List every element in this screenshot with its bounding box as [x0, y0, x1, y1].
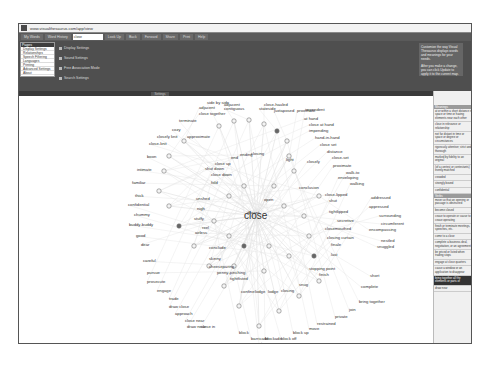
word-node[interactable]: pursue	[147, 270, 160, 275]
meaning-item[interactable]: cause a window or an application to disa…	[434, 266, 472, 276]
meaning-node[interactable]	[297, 294, 301, 298]
meaning-item[interactable]: rigorously attentive; strict and thoroug…	[434, 145, 472, 155]
word-node[interactable]: approximate	[187, 134, 211, 139]
word-node[interactable]: surrounding	[379, 213, 402, 218]
meaning-node[interactable]	[287, 254, 291, 258]
word-node[interactable]: walking	[350, 181, 365, 186]
meaning-node[interactable]	[257, 324, 261, 328]
word-node[interactable]: lodge	[255, 289, 266, 294]
word-node[interactable]: end	[231, 155, 239, 160]
word-node[interactable]: stop	[259, 341, 268, 344]
print-button[interactable]: Print	[180, 34, 193, 40]
scrollbar[interactable]	[471, 91, 472, 344]
meaning-item[interactable]: complete a business deal, negotiation, o…	[434, 240, 472, 250]
meaning-node[interactable]	[317, 194, 321, 198]
word-node[interactable]: nigh	[197, 206, 206, 211]
meaning-node[interactable]	[247, 118, 251, 122]
word-node[interactable]: addressed	[371, 195, 391, 200]
section-display-settings[interactable]: Display Settings	[59, 46, 89, 50]
meaning-node[interactable]	[285, 139, 289, 143]
word-node[interactable]: buddy-buddy	[129, 222, 154, 227]
word-node[interactable]: intimate	[137, 167, 152, 172]
word-node[interactable]: blockade	[265, 336, 282, 341]
word-node[interactable]: private	[335, 314, 348, 319]
word-node[interactable]: juxtaposed	[273, 108, 295, 113]
meaning-node[interactable]	[177, 224, 181, 228]
meaning-node[interactable]	[242, 184, 246, 188]
meaning-node[interactable]	[242, 244, 246, 248]
back-button[interactable]: Back	[126, 34, 140, 40]
word-node[interactable]: open	[264, 197, 274, 202]
meaning-node[interactable]	[192, 244, 196, 248]
meaning-node[interactable]	[262, 269, 266, 273]
word-node[interactable]: close at hand	[309, 122, 335, 127]
word-node[interactable]: stuffy	[194, 216, 205, 221]
word-node[interactable]: lodge	[268, 289, 279, 294]
word-node[interactable]: proximate	[333, 163, 352, 168]
word-node[interactable]: airless	[195, 230, 207, 235]
word-node[interactable]: join	[348, 307, 356, 312]
word-node[interactable]: bring together	[359, 299, 385, 304]
word-node[interactable]: finish	[319, 272, 329, 277]
search-input[interactable]: close	[73, 34, 103, 40]
meaning-item[interactable]: be priced or listed when trading stops	[434, 250, 472, 260]
meaning-node[interactable]	[262, 122, 266, 126]
meaning-item[interactable]: cease to operate or cause to cease opera…	[434, 214, 472, 224]
word-node[interactable]: shut	[329, 198, 338, 203]
meaning-node[interactable]	[232, 119, 236, 123]
word-node[interactable]: snug	[299, 282, 309, 287]
word-node[interactable]: adjacent	[199, 105, 216, 110]
thesaurus-graph[interactable]: side by sideadjacentcontiguousclose-haul…	[19, 96, 433, 344]
word-node[interactable]: tightlipped	[329, 209, 349, 214]
meaning-item[interactable]: finish or terminate meetings, speeches, …	[434, 224, 472, 234]
look-up-button[interactable]: Look Up	[105, 34, 124, 40]
word-node[interactable]: fold	[211, 180, 218, 185]
meaning-node[interactable]	[227, 234, 231, 238]
meaning-item[interactable]: move so that an opening or passage is ob…	[434, 198, 472, 208]
meaning-node[interactable]	[267, 244, 271, 248]
section-free-association[interactable]: Free Association Mode	[59, 66, 100, 70]
word-node[interactable]: appressed	[369, 204, 389, 209]
word-node[interactable]: thick	[135, 193, 145, 198]
word-node[interactable]: closely	[307, 159, 321, 164]
word-node[interactable]: short	[370, 273, 380, 278]
word-node[interactable]: draw close	[169, 304, 190, 309]
meaning-node[interactable]	[277, 309, 281, 313]
word-node[interactable]: confine	[241, 289, 255, 294]
word-node[interactable]: conclusion	[299, 185, 319, 190]
my-words-button[interactable]: My Words	[21, 34, 43, 40]
word-node[interactable]: closing	[281, 288, 295, 293]
word-node[interactable]: close-knit	[149, 141, 168, 146]
meaning-node[interactable]	[237, 304, 241, 308]
word-node[interactable]: enveloping	[338, 175, 359, 180]
word-node[interactable]: complete	[361, 284, 379, 289]
word-node[interactable]: contiguous	[224, 106, 244, 111]
word-node[interactable]: chummy	[134, 212, 151, 217]
meaning-item[interactable]: close in relevance or relationship	[434, 122, 472, 132]
word-node[interactable]: impending	[309, 128, 329, 133]
word-node[interactable]: cheeseparing	[209, 264, 235, 269]
meaning-node[interactable]	[217, 124, 221, 128]
meaning-node[interactable]	[182, 139, 186, 143]
word-node[interactable]: stopping point	[309, 266, 336, 271]
meaning-item[interactable]: draw near	[434, 286, 472, 292]
word-node[interactable]: confidential	[128, 202, 149, 207]
section-sound-settings[interactable]: Sound Settings	[59, 56, 88, 60]
word-node[interactable]: closemouthed	[325, 226, 352, 231]
word-node[interactable]: finale	[331, 242, 342, 247]
word-node[interactable]: shut down	[205, 166, 225, 171]
word-node[interactable]: close together	[199, 111, 226, 116]
center-word[interactable]: close	[244, 210, 268, 221]
word-node[interactable]: tightfisted	[230, 276, 249, 281]
word-node[interactable]: engage	[157, 288, 172, 293]
word-node[interactable]: conclude	[209, 245, 226, 250]
word-node[interactable]: skinny	[209, 256, 222, 261]
word-node[interactable]: light	[286, 157, 295, 162]
word-node[interactable]: restrained	[317, 321, 336, 326]
word-node[interactable]: hand-in-hand	[315, 135, 340, 140]
word-node[interactable]: approach	[175, 311, 193, 316]
share-button[interactable]: Share	[163, 34, 178, 40]
meaning-node[interactable]	[167, 204, 171, 208]
meaning-node[interactable]	[282, 204, 286, 208]
meaning-item[interactable]: bring together all the elements or parts…	[434, 276, 472, 286]
